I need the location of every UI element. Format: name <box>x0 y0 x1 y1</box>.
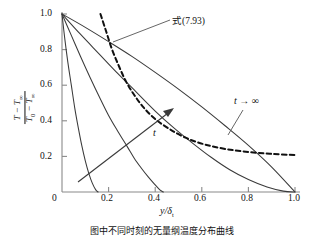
y-tick-label-0.8: 0.8 <box>40 44 52 54</box>
curve-2 <box>62 14 163 192</box>
curve-4 <box>62 14 295 192</box>
curve-1 <box>62 14 98 192</box>
y-den-sub-inf: ∞ <box>29 94 36 99</box>
t-infinity-arrow-text: → ∞ <box>237 95 259 106</box>
x-axis-label-sub: t <box>172 211 174 218</box>
x-tick-label-1.0: 1.0 <box>288 193 300 203</box>
t-infinity-label: t → ∞ <box>234 95 259 106</box>
y-axis-fraction-denominator: T0 − T∞ <box>26 92 37 125</box>
y-tick-label-0: 0 <box>52 193 57 203</box>
time-direction-arrow <box>78 108 174 182</box>
y-num-sub: ∞ <box>17 95 24 100</box>
y-axis-fraction-numerator: T − T∞ <box>13 92 25 125</box>
data-curves-group <box>62 14 295 192</box>
x-tick-label-0.6: 0.6 <box>194 193 206 203</box>
y-axis-fraction: T − T∞ T0 − T∞ <box>13 92 37 125</box>
y-axis-label: T − T∞ T0 − T∞ <box>8 78 42 138</box>
y-den-text: T <box>25 117 35 122</box>
figure-container: 1.0 0.8 0.6 0.4 0.2 0 0.2 0.4 0.6 0.8 1.… <box>0 0 323 237</box>
x-axis-label-text: y/δ <box>160 205 172 216</box>
y-axis-label-rotated: T − T∞ T0 − T∞ <box>13 92 37 125</box>
x-tick-label-0.4: 0.4 <box>148 193 160 203</box>
x-tick-label-0.8: 0.8 <box>241 193 253 203</box>
y-num-text: T − T <box>12 100 22 120</box>
x-axis-label: y/δt <box>160 205 174 218</box>
y-den-sub-zero: 0 <box>29 114 36 117</box>
figure-caption: 图中不同时刻的无量纲温度分布曲线 <box>0 224 323 237</box>
y-tick-label-1.0: 1.0 <box>40 8 52 18</box>
equation-leader-line <box>113 20 170 42</box>
x-tick-label-0.2: 0.2 <box>101 193 113 203</box>
equation-label: 式(7.93) <box>172 13 205 27</box>
curve-3 <box>62 14 295 192</box>
y-den-rest: − T <box>25 98 35 114</box>
x-axis-ticks <box>109 187 295 192</box>
time-arrow-label: t <box>153 127 156 138</box>
y-tick-label-0.2: 0.2 <box>40 151 52 161</box>
equation-label-text: 式(7.93) <box>172 16 205 26</box>
t-infinity-leader-line <box>228 110 243 135</box>
